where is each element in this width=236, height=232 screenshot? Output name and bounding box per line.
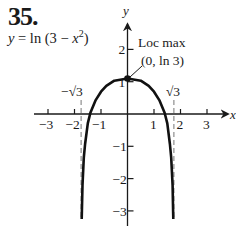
y-tick-label: −3 [113,204,128,219]
x-tick-label: 3 [203,117,210,132]
x-tick-label: −1 [92,117,106,132]
y-axis-label: y [121,3,129,18]
annotation-point: (0, ln 3) [141,53,184,68]
annotation-loc-max: Loc max [138,35,186,50]
x-tick-label: −2 [66,117,80,132]
asymptote-label: √3 [166,84,180,99]
asymptote-label: −√3 [61,84,83,99]
y-tick-label: −2 [113,172,127,187]
x-tick-label: 1 [150,117,157,132]
axis-ticks: −3−2−112321−1−2−3 [39,42,210,219]
x-tick-label: 2 [177,117,184,132]
y-tick-label: 1 [119,75,126,90]
local-max-point [124,75,131,82]
y-tick-label: −1 [113,139,127,154]
function-plot: −√3√3 x y −3−2−112321−1−2−3 Loc max (0, … [0,0,236,232]
y-tick-label: 2 [119,42,126,57]
x-axis-label: x [229,107,236,122]
x-tick-label: −3 [39,117,54,132]
